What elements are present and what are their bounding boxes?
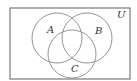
set-a-label: A <box>46 24 54 35</box>
set-c-label: C <box>71 63 79 74</box>
universal-set-rectangle <box>10 8 130 79</box>
set-b-label: B <box>94 25 102 36</box>
universal-set-label: U <box>117 9 126 20</box>
set-b-circle <box>62 13 112 63</box>
venn-diagram: U A B C <box>0 0 137 81</box>
set-a-circle <box>32 13 82 63</box>
